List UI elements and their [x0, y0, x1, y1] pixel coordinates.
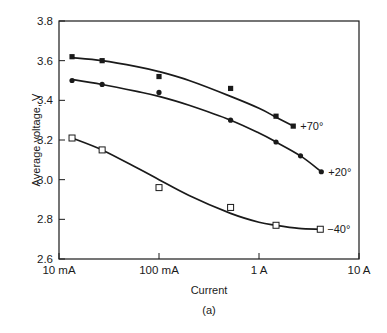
series-labels: +70°+20°−40°: [300, 120, 351, 235]
series-curve: [72, 58, 293, 126]
data-point-circle: [69, 78, 74, 83]
figure-caption: (a): [0, 304, 387, 316]
series-label: +70°: [300, 120, 323, 132]
data-point-square: [100, 58, 105, 63]
plot-border: [59, 21, 359, 259]
data-point-square: [273, 114, 278, 119]
data-point-open-square: [99, 147, 105, 153]
data-point-open-square: [156, 185, 162, 191]
y-tick-label: 2.8: [37, 213, 53, 225]
x-tick-label: 10 A: [347, 264, 370, 276]
data-point-circle: [100, 82, 105, 87]
data-point-circle: [298, 153, 303, 158]
data-point-circle: [228, 118, 233, 123]
data-point-circle: [156, 90, 161, 95]
series-markers: [69, 54, 324, 232]
data-point-square: [291, 124, 296, 129]
y-axis-label: Average voltage, V: [30, 93, 42, 186]
data-point-circle: [319, 169, 324, 174]
series-curve: [72, 138, 320, 229]
x-tick-label: 100 mA: [139, 264, 179, 276]
x-axis-ticks: 10 mA100 mA1 A10 A: [42, 253, 370, 276]
series-curves: [72, 58, 321, 230]
series-curve: [72, 80, 321, 172]
data-point-square: [156, 74, 161, 79]
data-point-open-square: [317, 226, 323, 232]
series-label: +20°: [328, 166, 351, 178]
plot-frame: [59, 21, 359, 259]
data-point-open-square: [69, 135, 75, 141]
x-axis-label: Current: [0, 284, 387, 296]
x-tick-label: 1 A: [251, 264, 268, 276]
data-point-square: [228, 86, 233, 91]
series-label: −40°: [327, 223, 350, 235]
y-tick-label: 3.6: [37, 55, 53, 67]
y-tick-label: 3.8: [37, 15, 53, 27]
data-point-open-square: [228, 204, 234, 210]
x-tick-label: 10 mA: [42, 264, 76, 276]
data-point-square: [69, 54, 74, 59]
data-point-circle: [273, 139, 278, 144]
data-point-open-square: [273, 222, 279, 228]
